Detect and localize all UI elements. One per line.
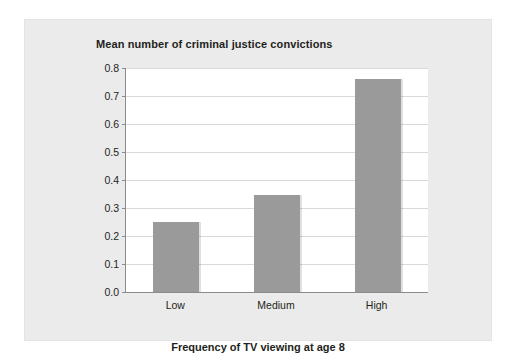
gridline [126,68,428,69]
y-axis-tick-mark [122,292,126,293]
y-axis-tick-mark [122,180,126,181]
y-axis-tick-mark [122,264,126,265]
bar-low [153,222,199,292]
y-axis-tick-label: 0.5 [93,146,119,158]
x-axis-tick-label: Medium [257,299,294,311]
y-axis-tick-mark [122,236,126,237]
y-axis-tick-mark [122,124,126,125]
y-axis-tick-mark [122,208,126,209]
y-axis-tick-labels: 0.80.70.60.50.40.30.20.10.0 [93,68,119,292]
y-axis-tick-label: 0.4 [93,174,119,186]
x-axis-title: Frequency of TV viewing at age 8 [24,341,492,353]
y-axis-tick-mark [122,152,126,153]
y-axis-tick-label: 0.0 [93,286,119,298]
chart-title: Mean number of criminal justice convicti… [96,38,333,50]
y-axis-tick-label: 0.6 [93,118,119,130]
bar-medium [254,195,300,292]
y-axis-tick-label: 0.1 [93,258,119,270]
figure-root: Mean number of criminal justice convicti… [0,0,517,362]
y-axis-tick-label: 0.8 [93,62,119,74]
y-axis-tick-label: 0.7 [93,90,119,102]
y-axis-tick-label: 0.3 [93,202,119,214]
y-axis-tick-label: 0.2 [93,230,119,242]
y-axis-tick-mark [122,68,126,69]
x-axis-tick-label: Low [166,299,185,311]
plot-area [125,68,428,293]
bar-high [355,79,401,292]
x-axis-tick-label: High [366,299,388,311]
y-axis-tick-mark [122,96,126,97]
